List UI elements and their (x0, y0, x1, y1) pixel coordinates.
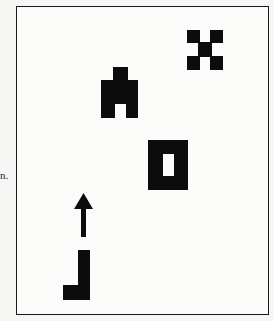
up-arrow-icon (0, 0, 274, 321)
